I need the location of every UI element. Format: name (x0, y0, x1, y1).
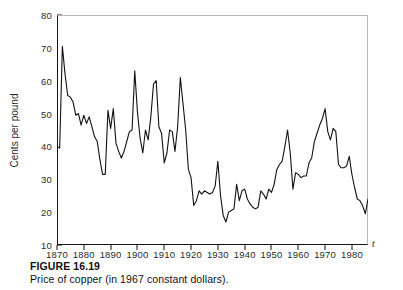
y-axis-tick-label: 60 (41, 75, 52, 86)
y-axis-tick-label: 80 (41, 10, 52, 21)
y-axis-title: Cents per pound (7, 15, 23, 245)
x-axis-tick-label: 1960 (287, 249, 309, 260)
figure-caption-label: FIGURE 16.19 (30, 260, 390, 273)
x-axis-tick-label: 1950 (261, 249, 283, 260)
x-axis-tick-label: 1880 (73, 249, 95, 260)
x-axis-tick-label: 1980 (341, 249, 363, 260)
figure-caption-text: Price of copper (in 1967 constant dollar… (30, 273, 390, 286)
x-axis-tick-label: 1910 (153, 249, 175, 260)
y-axis-tick-label: 70 (41, 42, 52, 53)
x-axis-tick-label: 1930 (207, 249, 229, 260)
figure-container: Cents per pound 1020304050607080 1870188… (0, 0, 403, 290)
x-axis-tick-label: 1900 (126, 249, 148, 260)
x-axis-tick-label: 1920 (180, 249, 202, 260)
y-axis-title-text: Cents per pound (10, 93, 21, 167)
x-axis-tick-label: 1970 (314, 249, 336, 260)
y-axis-tick-label: 30 (41, 174, 52, 185)
y-axis-tick-label: 40 (41, 141, 52, 152)
y-axis-tick-label: 20 (41, 207, 52, 218)
x-axis-tick-label: 1870 (46, 249, 68, 260)
x-axis-title: t (372, 238, 375, 249)
y-axis-tick-label: 50 (41, 108, 52, 119)
copper-price-line-series (57, 15, 368, 245)
y-axis-tick-labels: 1020304050607080 (30, 15, 52, 245)
x-axis-tick-label: 1940 (234, 249, 256, 260)
plot-area (57, 15, 368, 245)
x-axis-tick-label: 1890 (100, 249, 122, 260)
figure-caption: FIGURE 16.19 Price of copper (in 1967 co… (30, 260, 390, 286)
